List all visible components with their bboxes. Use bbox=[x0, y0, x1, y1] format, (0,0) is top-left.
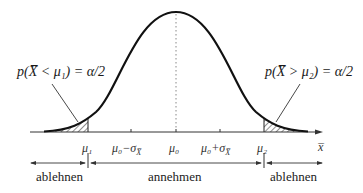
axis-label-xbar: x̅ bbox=[318, 140, 323, 155]
left-tail-annotation: p(X̅ < μ₁) = α/2 bbox=[17, 64, 105, 80]
region-right-reject: ablehnen bbox=[270, 169, 317, 185]
tick-mu0: μ₀ bbox=[169, 141, 179, 156]
region-left-reject: ablehnen bbox=[36, 169, 83, 185]
right-tail-annotation: p(X̅ > μ₂) = α/2 bbox=[265, 64, 353, 80]
tick-mu0-plus-sigma: μ₀+σX̅ bbox=[201, 141, 230, 157]
tick-mu2: μ₂ bbox=[257, 141, 267, 156]
tick-mu0-minus-sigma: μ₀−σX̅ bbox=[112, 141, 141, 157]
tick-mu1: μ₁ bbox=[82, 141, 92, 156]
region-accept: annehmen bbox=[148, 169, 201, 185]
normal-distribution-diagram bbox=[0, 0, 363, 193]
